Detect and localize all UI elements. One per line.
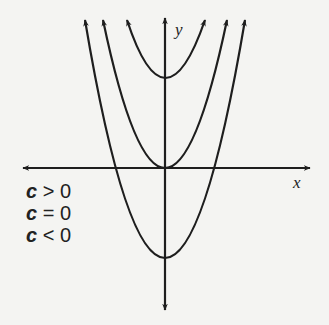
legend-item-c-negative: c < 0 [26, 224, 71, 246]
legend: c > 0 c = 0 c < 0 [26, 180, 71, 246]
parabola-diagram [0, 0, 329, 325]
x-axis-label: x [293, 173, 301, 193]
y-axis-label: y [175, 20, 183, 40]
legend-item-c-zero: c = 0 [26, 202, 71, 224]
legend-item-c-positive: c > 0 [26, 180, 71, 202]
